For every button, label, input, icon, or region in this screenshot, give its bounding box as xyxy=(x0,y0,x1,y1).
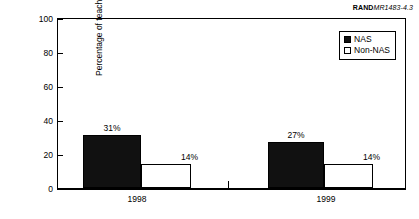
y-tick-label: 80 xyxy=(23,47,53,59)
rand-wordmark: RAND xyxy=(353,4,374,11)
legend-item-non-nas[interactable]: Non-NAS xyxy=(344,45,390,56)
y-tick-mark xyxy=(58,189,63,190)
y-tick-label: 60 xyxy=(23,81,53,93)
y-tick-mark xyxy=(58,53,63,54)
bar-value-label: 14% xyxy=(181,152,198,163)
bar-value-label: 31% xyxy=(103,123,120,134)
x-axis-label-1999: 1999 xyxy=(296,193,356,205)
legend-swatch-nas-icon xyxy=(344,36,351,43)
y-tick-label: 20 xyxy=(23,149,53,161)
bar-1998-nas[interactable]: 31% xyxy=(83,135,141,188)
figure-source-label: RANDMR1483-4.3 xyxy=(353,3,413,12)
y-tick-label: 100 xyxy=(23,13,53,25)
y-tick-mark xyxy=(58,87,63,88)
legend-label-nas: NAS xyxy=(354,34,371,45)
y-tick-label: 0 xyxy=(23,183,53,195)
bar-1999-nas[interactable]: 27% xyxy=(268,142,324,188)
legend-swatch-non-nas-icon xyxy=(344,47,351,54)
y-tick-label: 40 xyxy=(23,115,53,127)
bar-value-label: 14% xyxy=(363,152,380,163)
y-tick-mark xyxy=(58,121,63,122)
legend-label-non-nas: Non-NAS xyxy=(354,45,390,56)
x-axis-group-separator-tick xyxy=(228,181,229,188)
bar-1999-non-nas[interactable]: 14% xyxy=(324,164,373,188)
chart-legend: NAS Non-NAS xyxy=(339,31,396,60)
y-axis-title: Percentage of teachers xyxy=(92,0,106,112)
bar-value-label: 27% xyxy=(287,130,304,141)
figure-id: MR1483-4.3 xyxy=(373,4,413,11)
bar-1998-non-nas[interactable]: 14% xyxy=(141,164,191,188)
legend-item-nas[interactable]: NAS xyxy=(344,34,390,45)
chart-plot-area: Percentage of teachers 100 80 60 40 20 0… xyxy=(57,18,406,190)
x-axis-label-1998: 1998 xyxy=(107,193,167,205)
y-tick-mark xyxy=(58,19,63,20)
y-tick-mark xyxy=(58,155,63,156)
